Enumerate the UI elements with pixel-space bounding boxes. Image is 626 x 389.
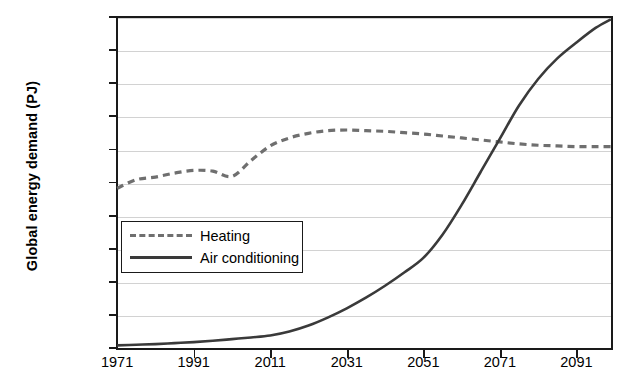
series-line-air-conditioning [117, 19, 611, 345]
legend-item-heating: Heating [130, 225, 298, 247]
legend-label-air-conditioning: Air conditioning [200, 247, 299, 269]
x-tick-label: 1971 [101, 354, 133, 370]
legend-label-heating: Heating [200, 225, 250, 247]
x-tick-mark [500, 350, 502, 358]
series-line-heating [117, 130, 611, 188]
y-axis-title: Global energy demand (PJ) [24, 16, 40, 336]
energy-demand-line-chart: Global energy demand (PJ) 05000100001500… [0, 0, 626, 389]
x-tick-mark [194, 350, 196, 358]
legend: Heating Air conditioning [121, 221, 303, 273]
legend-swatch-air-conditioning [130, 256, 192, 259]
x-tick-mark [270, 350, 272, 358]
x-tick-mark [576, 350, 578, 358]
x-tick-mark [423, 350, 425, 358]
series-curves [116, 16, 613, 350]
x-tick-mark [347, 350, 349, 358]
legend-swatch-heating [130, 234, 192, 237]
legend-item-air-conditioning: Air conditioning [130, 247, 298, 269]
